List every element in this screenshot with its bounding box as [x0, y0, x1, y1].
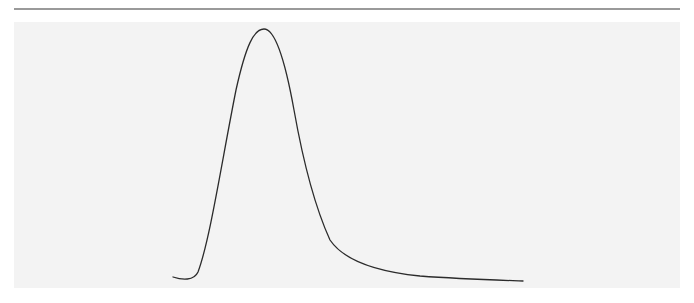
skewed-distribution-curve [0, 0, 694, 303]
distribution-line [173, 29, 523, 281]
